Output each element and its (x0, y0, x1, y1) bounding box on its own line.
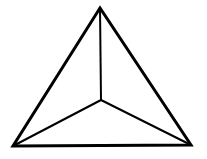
outer-triangle (13, 8, 191, 146)
inner-edge-top (100, 8, 101, 100)
tetrahedron-diagram (0, 0, 207, 159)
